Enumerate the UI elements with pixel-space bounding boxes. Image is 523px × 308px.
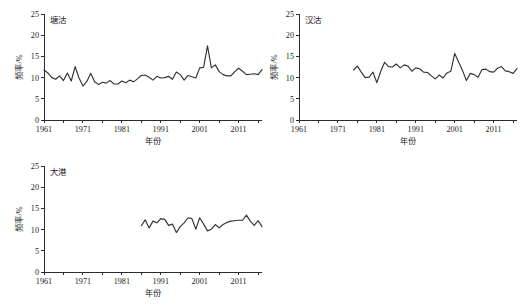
y-tick-label: 10 xyxy=(31,74,39,83)
x-tick-label: 1961 xyxy=(291,125,307,134)
x-tick-label: 1981 xyxy=(114,277,130,286)
y-tick-label: 15 xyxy=(286,52,294,61)
x-tick-label: 2001 xyxy=(447,125,463,134)
x-axis-title: 年份 xyxy=(145,136,161,146)
y-tick-label: 15 xyxy=(31,204,39,213)
y-tick-label: 15 xyxy=(31,52,39,61)
y-tick-label: 10 xyxy=(31,226,39,235)
panel-title: 大港 xyxy=(50,167,67,177)
y-tick-label: 0 xyxy=(290,116,294,125)
panel-title: 塘沽 xyxy=(50,15,67,25)
y-tick-label: 5 xyxy=(290,95,294,104)
y-tick-label: 25 xyxy=(286,10,294,19)
y-tick-label: 20 xyxy=(31,183,39,192)
y-tick-label: 0 xyxy=(35,116,39,125)
panel-title: 汉沽 xyxy=(305,15,322,25)
y-tick-label: 10 xyxy=(286,74,294,83)
y-tick-label: 5 xyxy=(35,95,39,104)
x-tick-label: 1971 xyxy=(330,125,346,134)
x-tick-label: 1981 xyxy=(114,125,130,134)
x-axis-title: 年份 xyxy=(400,136,416,146)
x-tick-label: 2001 xyxy=(192,125,208,134)
line-chart-tanggu: 0510152025196119711981199120012011年份频率/%… xyxy=(0,0,268,152)
x-tick-label: 1961 xyxy=(36,277,52,286)
series-line xyxy=(354,53,518,82)
y-tick-label: 20 xyxy=(31,31,39,40)
x-tick-label: 1971 xyxy=(75,277,91,286)
x-tick-label: 1991 xyxy=(153,277,169,286)
series-line xyxy=(44,46,262,86)
x-tick-label: 1971 xyxy=(75,125,91,134)
x-tick-label: 2001 xyxy=(192,277,208,286)
y-tick-label: 25 xyxy=(31,10,39,19)
x-tick-label: 2011 xyxy=(231,125,247,134)
y-axis-title: 频率/% xyxy=(269,54,279,79)
y-tick-label: 20 xyxy=(286,31,294,40)
y-axis-title: 频率/% xyxy=(14,206,24,231)
x-tick-label: 1961 xyxy=(36,125,52,134)
y-tick-label: 0 xyxy=(35,268,39,277)
x-axis-title: 年份 xyxy=(145,288,161,298)
chart-panel-tanggu: 0510152025196119711981199120012011年份频率/%… xyxy=(0,0,268,152)
x-tick-label: 1991 xyxy=(408,125,424,134)
x-tick-label: 2011 xyxy=(231,277,247,286)
line-chart-hangu: 0510152025196119711981199120012011年份频率/%… xyxy=(255,0,523,152)
chart-panel-dagang: 0510152025196119711981199120012011年份频率/%… xyxy=(0,152,268,308)
x-tick-label: 1981 xyxy=(369,125,385,134)
x-tick-label: 2011 xyxy=(486,125,502,134)
chart-panel-hangu: 0510152025196119711981199120012011年份频率/%… xyxy=(255,0,523,152)
y-tick-label: 25 xyxy=(31,162,39,171)
y-axis-title: 频率/% xyxy=(14,54,24,79)
x-tick-label: 1991 xyxy=(153,125,169,134)
line-chart-dagang: 0510152025196119711981199120012011年份频率/%… xyxy=(0,152,268,308)
y-tick-label: 5 xyxy=(35,247,39,256)
series-line xyxy=(141,215,262,232)
